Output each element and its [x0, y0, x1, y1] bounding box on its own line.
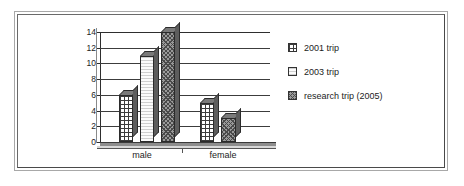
y-axis-back-line [96, 28, 97, 143]
bar-female-research-trip-2005 [221, 118, 236, 142]
legend-label: research trip (2005) [304, 91, 383, 101]
y-tick-label: 4 [78, 107, 96, 115]
x-axis-label-male: male [117, 150, 167, 160]
bar-side-face [175, 22, 180, 137]
legend-swatch-dark-icon [288, 91, 297, 100]
gridline [100, 32, 270, 33]
bar-front-face [140, 56, 154, 142]
gridline [100, 63, 270, 64]
bar-side-face [236, 108, 241, 137]
y-axis-tick-labels: 14 12 10 8 6 4 2 0 [76, 32, 96, 143]
y-tick-label: 6 [78, 91, 96, 99]
gridline [100, 48, 270, 49]
bar-side-face [133, 85, 138, 137]
y-tick-label: 10 [78, 59, 96, 67]
y-tick-label: 0 [78, 138, 96, 146]
bar-front-face [161, 32, 175, 142]
bar-male-2001-trip [119, 95, 133, 142]
x-axis-label-female: female [198, 150, 248, 160]
y-tick-label: 2 [78, 122, 96, 130]
legend-label: 2003 trip [304, 67, 339, 77]
bar-front-face [200, 103, 214, 142]
y-tick-label: 12 [78, 44, 96, 52]
bar-front-face [221, 118, 236, 142]
legend-swatch-light-icon [288, 67, 297, 76]
plot-area [100, 32, 270, 142]
bar-chart: 14 12 10 8 6 4 2 0 [0, 0, 464, 186]
legend-item-2003-trip: 2003 trip [288, 62, 438, 81]
y-tick-label: 8 [78, 75, 96, 83]
bar-side-face [214, 93, 219, 137]
legend-label: 2001 trip [304, 43, 339, 53]
bar-front-face [119, 95, 133, 142]
bar-female-2001-trip [200, 103, 214, 142]
chart-legend: 2001 trip 2003 trip research trip (2005) [288, 38, 438, 110]
y-tick-label: 14 [78, 28, 96, 36]
plot-floor-front-edge [97, 146, 276, 149]
bar-side-face [154, 46, 159, 137]
legend-item-research-trip-2005: research trip (2005) [288, 86, 438, 105]
bar-male-research-trip-2005 [161, 32, 175, 142]
legend-swatch-grid-icon [288, 43, 297, 52]
x-tick-mark [182, 149, 183, 153]
legend-item-2001-trip: 2001 trip [288, 38, 438, 57]
bar-male-2003-trip [140, 56, 154, 142]
gridline [100, 79, 270, 80]
